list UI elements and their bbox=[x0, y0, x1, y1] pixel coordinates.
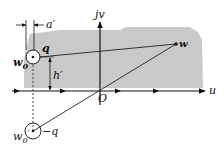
field-point-label: w bbox=[179, 38, 188, 49]
image-point-label: w0′ bbox=[13, 128, 30, 145]
jv-label: jv bbox=[92, 8, 105, 21]
image-charge-label: −q bbox=[42, 125, 58, 138]
image-charge-diagram: a′ jv q w0 h′ w O u w0′ −q bbox=[0, 0, 224, 149]
boundary-arrow-3 bbox=[115, 89, 121, 94]
boundary-arrow-2 bbox=[60, 89, 66, 94]
source-charge-label: q bbox=[42, 42, 50, 55]
boundary-arrow-1 bbox=[14, 89, 20, 94]
source-charge-dot bbox=[32, 56, 35, 59]
image-charge-dot bbox=[32, 130, 35, 133]
boundary-arrow-4 bbox=[153, 89, 159, 94]
a-prime-label: a′ bbox=[46, 18, 56, 31]
u-label: u bbox=[209, 84, 216, 97]
shaded-region bbox=[24, 27, 203, 88]
field-point-dot bbox=[174, 42, 178, 46]
origin-label: O bbox=[98, 92, 107, 105]
h-prime-label: h′ bbox=[53, 69, 63, 82]
